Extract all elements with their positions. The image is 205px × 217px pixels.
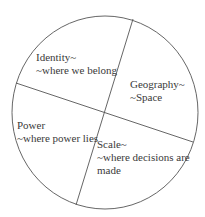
geography-subtitle: ~Space (130, 91, 185, 104)
quadrant-circle-diagram: Identity~ ~where we belong Geography~ ~S… (0, 0, 205, 217)
identity-subtitle: ~where we belong (36, 64, 117, 77)
section-geography: Geography~ ~Space (130, 78, 185, 104)
scale-subtitle: ~where decisions are (97, 151, 190, 164)
identity-title: Identity~ (36, 51, 117, 64)
divider-line-vertical (76, 19, 133, 205)
section-identity: Identity~ ~where we belong (36, 51, 117, 77)
scale-subtitle-cont: made (97, 164, 190, 177)
scale-title: Scale~ (97, 138, 190, 151)
power-title: Power (17, 119, 98, 132)
section-scale: Scale~ ~where decisions are made (97, 138, 190, 177)
geography-title: Geography~ (130, 78, 185, 91)
section-power: Power ~where power lies (17, 119, 98, 145)
circle-graphic (0, 0, 205, 217)
power-subtitle: ~where power lies (17, 132, 98, 145)
